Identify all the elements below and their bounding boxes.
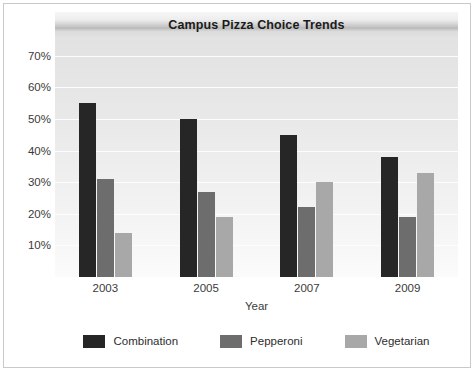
legend-label: Vegetarian [375,335,430,347]
bar-group [79,40,132,277]
x-axis-tick-label: 2003 [93,282,119,294]
legend: CombinationPepperoniVegetarian [55,330,458,352]
y-axis: 10%20%30%40%50%60%70% [0,40,51,277]
bar[interactable] [399,217,416,277]
bar[interactable] [180,119,197,277]
bar[interactable] [417,173,434,277]
y-axis-tick-label: 70% [5,50,51,62]
chart-container: Campus Pizza Choice Trends 10%20%30%40%5… [0,0,474,371]
x-axis-labels: 2003200520072009 [55,282,458,298]
legend-item[interactable]: Pepperoni [220,335,302,348]
legend-swatch [220,335,242,348]
bar[interactable] [115,233,132,277]
bar[interactable] [316,182,333,277]
y-axis-tick-label: 30% [5,176,51,188]
y-axis-tick-label: 20% [5,208,51,220]
legend-label: Combination [113,335,178,347]
bar-group [180,40,233,277]
plot-area [55,40,458,277]
bar[interactable] [216,217,233,277]
legend-item[interactable]: Combination [83,335,178,348]
y-axis-tick-label: 60% [5,81,51,93]
bar[interactable] [79,103,96,277]
bar-group [381,40,434,277]
legend-swatch [345,335,367,348]
legend-label: Pepperoni [250,335,302,347]
bar[interactable] [97,179,114,277]
x-axis-tick-label: 2005 [193,282,219,294]
legend-item[interactable]: Vegetarian [345,335,430,348]
bar[interactable] [198,192,215,277]
x-axis-tick-label: 2009 [395,282,421,294]
x-axis-tick-label: 2007 [294,282,320,294]
y-axis-tick-label: 50% [5,113,51,125]
y-axis-tick-label: 10% [5,239,51,251]
y-axis-tick-label: 40% [5,145,51,157]
bar[interactable] [280,135,297,277]
legend-swatch [83,335,105,348]
bar[interactable] [298,207,315,277]
page-title: Campus Pizza Choice Trends [55,15,458,35]
x-axis-title: Year [55,300,458,312]
bar[interactable] [381,157,398,277]
bar-group [280,40,333,277]
